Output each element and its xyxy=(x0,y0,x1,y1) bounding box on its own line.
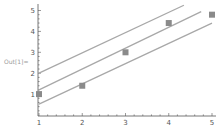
y-tick-label: 4 xyxy=(31,28,36,36)
data-point-square xyxy=(166,20,172,26)
data-point-square xyxy=(36,91,42,97)
x-tick-label: 2 xyxy=(80,119,84,127)
y-tick-label: 2 xyxy=(31,70,35,78)
lower-band-line xyxy=(39,23,212,104)
data-point-square xyxy=(123,49,129,55)
upper-band-line xyxy=(39,5,184,73)
x-tick-label: 4 xyxy=(167,119,172,127)
y-tick-label: 1 xyxy=(31,91,35,99)
scatter-plot-with-fit-lines: 1234512345 xyxy=(0,0,222,130)
y-tick-label: 3 xyxy=(31,49,35,57)
x-tick-label: 3 xyxy=(123,119,127,127)
data-point-square xyxy=(209,12,215,18)
y-tick-label: 5 xyxy=(31,7,35,15)
x-tick-label: 5 xyxy=(210,119,214,127)
data-point-square xyxy=(79,83,85,89)
fit-line xyxy=(39,12,201,90)
x-tick-label: 1 xyxy=(37,119,41,127)
